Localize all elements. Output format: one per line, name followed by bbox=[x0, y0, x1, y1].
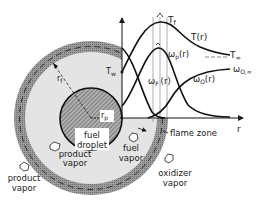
product-vapor-outer-label-1: product bbox=[8, 173, 41, 183]
droplet-diagram: fuel droplet rf rp r Tw Tf T(r) T∞ ωp(r)… bbox=[0, 0, 268, 202]
omega-o-label: ωO(r) bbox=[193, 74, 215, 85]
product-vapor-outer-arrow-icon bbox=[20, 162, 29, 171]
omega-p-label: ωp(r) bbox=[168, 49, 189, 61]
fuel-vapor-label-1: fuel bbox=[123, 143, 139, 153]
product-vapor-outer-label-2: vapor bbox=[12, 183, 37, 193]
tf-peak-marker-icon bbox=[157, 13, 163, 17]
temperature-curve bbox=[122, 22, 230, 72]
oxidizer-vapor-arrow-icon bbox=[165, 154, 173, 163]
product-vapor-inner-label-2: vapor bbox=[63, 158, 88, 168]
fuel-droplet-label-1: fuel bbox=[84, 130, 100, 140]
oxidizer-vapor-label-1: oxidizer bbox=[158, 168, 192, 178]
omega-f-label: ωF(r) bbox=[148, 76, 171, 87]
tr-label: T(r) bbox=[190, 32, 207, 42]
t-inf-label: T∞ bbox=[229, 50, 241, 62]
omega-p-peak-marker-icon bbox=[156, 43, 160, 45]
omega-o-inf-label: ωO,∞ bbox=[233, 64, 252, 75]
flame-zone-label: flame zone bbox=[170, 128, 217, 138]
fuel-vapor-label-2: vapor bbox=[119, 153, 144, 163]
tw-point bbox=[121, 71, 124, 74]
r-axis-label: r bbox=[237, 124, 241, 134]
oxidizer-vapor-label-2: vapor bbox=[163, 178, 188, 188]
